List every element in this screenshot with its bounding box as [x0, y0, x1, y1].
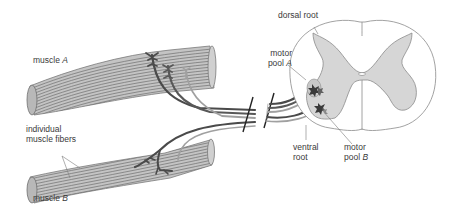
- muscle-b-end-right: [208, 139, 215, 165]
- central-canal: [359, 73, 366, 76]
- muscle-a-end-left: [27, 85, 37, 115]
- label-muscle-a: muscle A: [33, 55, 68, 65]
- label-muscle-b: muscle B: [33, 193, 68, 203]
- label-motor-pool-b: motorpool B: [344, 142, 368, 162]
- label-dorsal-root: dorsal root: [278, 10, 318, 20]
- label-motor-pool-a: motorpool A: [262, 48, 292, 68]
- motor-pool-diagram: muscle A muscle B individualmuscle fiber…: [0, 0, 456, 215]
- label-individual-fibers: individualmuscle fibers: [26, 124, 76, 144]
- diagram-canvas: [0, 0, 456, 215]
- spinal-cord: [290, 20, 436, 130]
- muscle-a-end-right: [208, 46, 216, 88]
- label-ventral-root: ventralroot: [293, 142, 319, 162]
